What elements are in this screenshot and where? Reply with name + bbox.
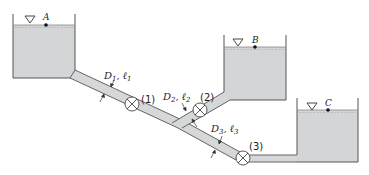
valve-3-label: (3) xyxy=(249,141,263,152)
pipe-2-label: D2, ℓ2 xyxy=(162,91,191,104)
point-c-marker xyxy=(326,108,330,112)
reservoir-a: A xyxy=(13,12,75,78)
reservoir-c: C xyxy=(297,98,358,162)
valve-2-label: (2) xyxy=(200,92,214,103)
point-b-marker xyxy=(253,45,257,49)
reservoir-b-water xyxy=(224,47,286,100)
pipe-3-horizontal xyxy=(243,155,297,162)
point-a-marker xyxy=(44,23,48,27)
pipe-1 xyxy=(70,70,240,160)
reservoir-a-water xyxy=(13,25,75,78)
reservoir-c-water xyxy=(297,110,358,162)
reservoir-b: B xyxy=(224,35,286,100)
pipe-3-label: D3, ℓ3 xyxy=(210,123,239,136)
free-surface-icon xyxy=(25,16,35,23)
pipe-network-diagram: A B C (1) xyxy=(0,0,369,175)
point-a-label: A xyxy=(42,12,50,22)
point-c-label: C xyxy=(325,98,332,108)
free-surface-icon xyxy=(233,39,243,46)
point-b-label: B xyxy=(251,35,259,45)
valve-1-label: (1) xyxy=(141,94,155,105)
free-surface-icon xyxy=(307,103,317,110)
pipe-1-label: D1, ℓ1 xyxy=(103,70,132,83)
